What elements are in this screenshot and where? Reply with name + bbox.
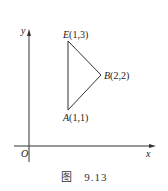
- caption-number: 9.13: [84, 171, 107, 183]
- origin-label: O: [21, 148, 28, 159]
- point-B-label: B(2,2): [104, 70, 129, 82]
- y-axis-arrow-icon: [27, 29, 31, 36]
- point-A-label: A(1,1): [62, 112, 88, 124]
- y-axis-label: y: [20, 25, 26, 36]
- caption-prefix: 图: [61, 171, 73, 183]
- triangle-EBA: [68, 41, 101, 110]
- figure-caption: 图 9.13: [0, 168, 168, 184]
- point-E-label: E(1,3): [62, 29, 88, 41]
- diagram-canvas: y x O E(1,3) B(2,2) A(1,1): [0, 0, 168, 191]
- x-axis-label: x: [145, 148, 151, 159]
